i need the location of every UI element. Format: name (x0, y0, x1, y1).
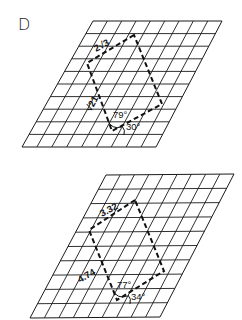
top-lattice-angle-label: 30° (126, 121, 141, 132)
panel-letter: D (18, 15, 30, 34)
bottom-lattice-angle-label: 34° (131, 291, 146, 302)
bottom-cell-angle-label: 77° (117, 279, 132, 290)
lattice-diagram: D 2√3 √21 79° 30° 3.32 4.74 77° 34° (0, 0, 242, 320)
top-cell-angle-label: 79° (113, 109, 128, 120)
